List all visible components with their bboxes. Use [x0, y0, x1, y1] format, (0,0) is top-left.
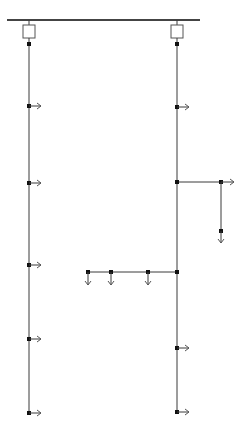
- branch-junction-node: [175, 270, 179, 274]
- breaker-output-node: [175, 42, 179, 46]
- distribution-diagram: [0, 0, 247, 430]
- breaker-box-icon: [171, 25, 183, 38]
- breaker-output-node: [27, 42, 31, 46]
- breaker-box-icon: [23, 25, 35, 38]
- branch-junction-node: [175, 180, 179, 184]
